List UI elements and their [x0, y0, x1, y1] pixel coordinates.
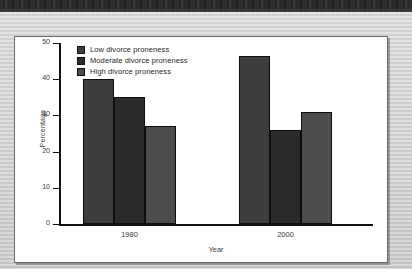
scan-artifact-band: [0, 0, 412, 12]
screenshot-root: Percentage 01020304050 19802000 Year Low…: [0, 0, 412, 269]
x-tick-label: 1980: [100, 230, 160, 239]
y-tick: 40: [53, 79, 59, 80]
y-tick: 50: [53, 43, 59, 44]
legend-item: Moderate divorce proneness: [77, 55, 188, 66]
y-tick-label: 50: [42, 38, 50, 45]
legend-item: Low divorce proneness: [77, 44, 188, 55]
page-surface: Percentage 01020304050 19802000 Year Low…: [0, 12, 412, 269]
bar: [301, 112, 332, 224]
legend-label: High divorce proneness: [90, 67, 171, 76]
legend-swatch-icon: [77, 68, 85, 76]
bar: [114, 97, 145, 224]
chart-legend: Low divorce pronenessModerate divorce pr…: [77, 44, 188, 77]
legend-label: Low divorce proneness: [90, 45, 169, 54]
y-tick-label: 10: [42, 183, 50, 190]
bar: [145, 126, 176, 224]
y-tick-label: 20: [42, 147, 50, 154]
figure-panel: Percentage 01020304050 19802000 Year Low…: [14, 36, 388, 263]
legend-label: Moderate divorce proneness: [90, 56, 188, 65]
y-tick: 10: [53, 188, 59, 189]
legend-swatch-icon: [77, 57, 85, 65]
bar: [239, 56, 270, 224]
y-tick: 0: [53, 224, 59, 225]
bar: [270, 130, 301, 224]
y-tick-label: 30: [42, 110, 50, 117]
x-axis-line: [59, 224, 373, 226]
legend-item: High divorce proneness: [77, 66, 188, 77]
y-tick-label: 0: [46, 219, 50, 226]
bar-chart: Percentage 01020304050 19802000 Year Low…: [15, 37, 387, 262]
x-axis-label: Year: [59, 245, 373, 254]
y-tick-label: 40: [42, 74, 50, 81]
y-tick: 20: [53, 152, 59, 153]
legend-swatch-icon: [77, 46, 85, 54]
x-tick-label: 2000: [256, 230, 316, 239]
bar: [83, 79, 114, 224]
y-axis-label: Percentage: [39, 84, 46, 174]
y-tick: 30: [53, 115, 59, 116]
